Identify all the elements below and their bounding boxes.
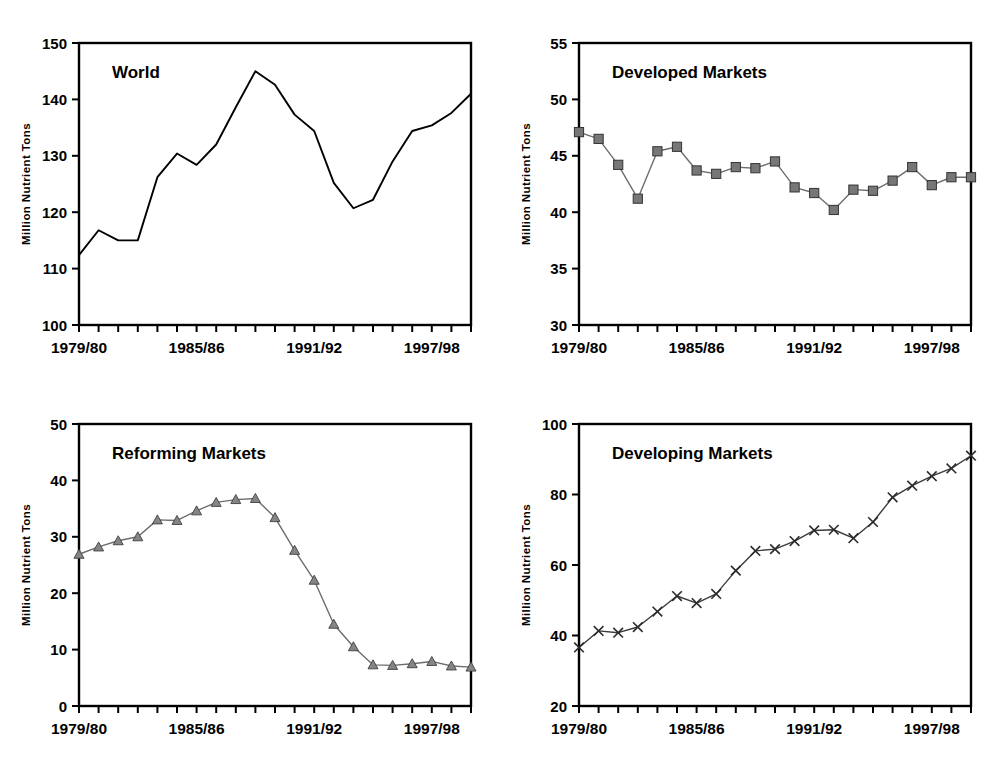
- data-point-marker: [692, 166, 701, 175]
- data-point-marker: [672, 142, 681, 151]
- data-point-marker: [731, 566, 741, 576]
- data-point-marker: [888, 493, 898, 503]
- data-point-marker: [594, 134, 603, 143]
- y-tick-label: 40: [550, 204, 567, 221]
- data-point-marker: [966, 173, 975, 182]
- y-tick-label: 50: [50, 416, 67, 433]
- x-tick-label: 1997/98: [404, 339, 460, 356]
- data-point-marker: [633, 622, 643, 632]
- y-tick-label: 0: [59, 698, 67, 715]
- panel-title: World: [112, 63, 160, 82]
- y-tick-label: 50: [550, 91, 567, 108]
- plot-frame: [579, 43, 971, 325]
- chart-figure: 1001101201301401501979/801985/861991/921…: [0, 0, 1001, 762]
- panel-title: Developed Markets: [612, 63, 767, 82]
- x-tick-label: 1979/80: [51, 720, 107, 737]
- x-tick-label: 1979/80: [551, 720, 607, 737]
- panel-title: Reforming Markets: [112, 444, 266, 463]
- data-point-marker: [907, 481, 917, 491]
- y-tick-label: 140: [42, 91, 67, 108]
- chart-svg-reforming-markets: 010203040501979/801985/861991/921997/98M…: [0, 381, 500, 762]
- data-point-marker: [192, 506, 202, 515]
- x-tick-label: 1979/80: [51, 339, 107, 356]
- y-tick-label: 130: [42, 147, 67, 164]
- data-point-marker: [692, 598, 702, 608]
- y-tick-label: 20: [50, 585, 67, 602]
- y-axis-title: Million Nutrient Tons: [520, 123, 532, 245]
- data-point-marker: [633, 194, 642, 203]
- chart-panel-world: 1001101201301401501979/801985/861991/921…: [0, 0, 500, 381]
- data-point-marker: [653, 607, 663, 617]
- data-point-marker: [927, 181, 936, 190]
- y-tick-label: 100: [542, 416, 567, 433]
- x-tick-label: 1985/86: [169, 339, 225, 356]
- x-tick-label: 1985/86: [669, 339, 725, 356]
- x-tick-label: 1991/92: [286, 720, 342, 737]
- x-tick-label: 1985/86: [669, 720, 725, 737]
- y-tick-label: 60: [550, 557, 567, 574]
- y-tick-label: 55: [550, 35, 567, 52]
- x-tick-label: 1997/98: [904, 720, 960, 737]
- chart-panel-developing-markets: 204060801001979/801985/861991/921997/98M…: [500, 381, 1000, 762]
- y-tick-label: 35: [550, 260, 567, 277]
- y-tick-label: 150: [42, 35, 67, 52]
- y-tick-label: 30: [50, 528, 67, 545]
- x-tick-label: 1979/80: [551, 339, 607, 356]
- panel-title: Developing Markets: [612, 444, 773, 463]
- x-tick-label: 1997/98: [904, 339, 960, 356]
- data-point-marker: [829, 205, 838, 214]
- data-point-marker: [711, 589, 721, 599]
- data-point-marker: [574, 128, 583, 137]
- data-point-marker: [712, 169, 721, 178]
- data-point-marker: [927, 471, 937, 481]
- series-line: [79, 498, 471, 667]
- chart-svg-developing-markets: 204060801001979/801985/861991/921997/98M…: [500, 381, 1000, 762]
- data-point-marker: [74, 549, 84, 558]
- x-tick-label: 1985/86: [169, 720, 225, 737]
- y-tick-label: 100: [42, 317, 67, 334]
- y-tick-label: 40: [50, 472, 67, 489]
- data-point-marker: [908, 162, 917, 171]
- data-point-marker: [770, 157, 779, 166]
- x-tick-label: 1991/92: [786, 339, 842, 356]
- data-point-marker: [614, 160, 623, 169]
- chart-svg-world: 1001101201301401501979/801985/861991/921…: [0, 0, 500, 381]
- data-point-marker: [731, 162, 740, 171]
- x-tick-label: 1991/92: [786, 720, 842, 737]
- y-tick-label: 10: [50, 641, 67, 658]
- y-axis-title: Million Nutrient Tons: [20, 504, 32, 626]
- x-tick-label: 1997/98: [404, 720, 460, 737]
- data-point-marker: [309, 575, 319, 584]
- y-tick-label: 20: [550, 698, 567, 715]
- data-point-marker: [250, 493, 260, 502]
- data-point-marker: [868, 517, 878, 527]
- chart-svg-developed-markets: 3035404550551979/801985/861991/921997/98…: [500, 0, 1000, 381]
- data-point-marker: [849, 185, 858, 194]
- series-line: [79, 71, 471, 255]
- y-tick-label: 45: [550, 147, 567, 164]
- data-point-marker: [810, 188, 819, 197]
- series-line: [579, 456, 971, 648]
- data-point-marker: [849, 533, 859, 543]
- y-axis-title: Million Nutrient Tons: [20, 123, 32, 245]
- data-point-marker: [868, 186, 877, 195]
- data-point-marker: [672, 591, 682, 601]
- data-point-marker: [947, 464, 957, 474]
- data-point-marker: [329, 619, 339, 628]
- y-tick-label: 40: [550, 627, 567, 644]
- y-axis-title: Million Nutrient Tons: [520, 504, 532, 626]
- plot-frame: [579, 424, 971, 706]
- data-point-marker: [290, 545, 300, 554]
- data-point-marker: [947, 173, 956, 182]
- chart-panel-developed-markets: 3035404550551979/801985/861991/921997/98…: [500, 0, 1000, 381]
- x-tick-label: 1991/92: [286, 339, 342, 356]
- data-point-marker: [888, 176, 897, 185]
- data-point-marker: [751, 164, 760, 173]
- y-tick-label: 30: [550, 317, 567, 334]
- y-tick-label: 80: [550, 486, 567, 503]
- data-point-marker: [790, 536, 800, 546]
- y-tick-label: 120: [42, 204, 67, 221]
- y-tick-label: 110: [43, 260, 67, 277]
- data-point-marker: [427, 656, 437, 665]
- chart-panel-reforming-markets: 010203040501979/801985/861991/921997/98M…: [0, 381, 500, 762]
